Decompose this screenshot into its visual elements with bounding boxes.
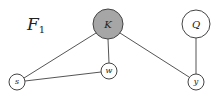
graph-title: F1	[26, 14, 45, 35]
node-Q: Q	[182, 10, 210, 38]
node-K: K	[93, 9, 123, 39]
node-y: y	[188, 74, 204, 90]
edge-K-w	[108, 39, 109, 63]
node-K-label: K	[103, 19, 112, 30]
node-y-label: y	[193, 77, 199, 86]
edge-K-s	[24, 33, 96, 78]
node-s: s	[9, 74, 25, 90]
graph-title-subscript: 1	[39, 24, 45, 35]
node-s-label: s	[15, 77, 19, 86]
node-w: w	[101, 63, 117, 79]
graph-diagram: K Q w s y F1	[0, 0, 222, 101]
node-Q-label: Q	[192, 19, 200, 30]
edge-K-y	[120, 33, 189, 77]
edge-s-w	[25, 72, 101, 81]
node-w-label: w	[106, 66, 113, 75]
